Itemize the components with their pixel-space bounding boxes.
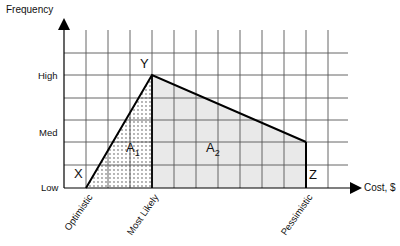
- y-axis-arrow-icon: [58, 18, 70, 30]
- point-z-label: Z: [309, 167, 317, 182]
- y-tick-med: Med: [39, 127, 57, 138]
- area-a1-label: A1: [126, 140, 140, 158]
- point-x-label: X: [74, 166, 83, 181]
- area-a1-letter: A: [126, 140, 135, 155]
- triangular-distribution-chart: [0, 0, 400, 246]
- y-axis-title: Frequency: [6, 4, 53, 15]
- area-a1-subscript: 1: [135, 148, 140, 158]
- y-tick-high: High: [38, 70, 58, 81]
- area-a2-subscript: 2: [215, 148, 220, 158]
- x-axis-arrow-icon: [350, 182, 362, 194]
- area-a2-label: A2: [206, 140, 220, 158]
- point-y-label: Y: [140, 56, 149, 71]
- x-axis-title: Cost, $: [364, 182, 396, 193]
- y-tick-low: Low: [41, 182, 58, 193]
- area-a2-letter: A: [206, 140, 215, 155]
